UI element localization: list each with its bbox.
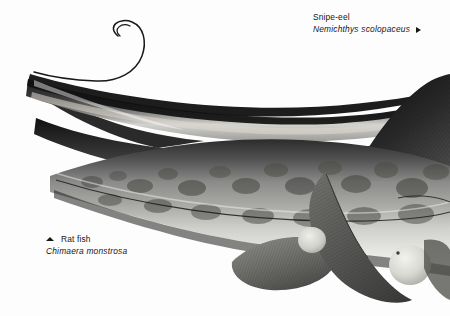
snipe-eel-species-name: Nemichthys scolopaceus	[313, 24, 410, 36]
snipe-eel-common-name: Snipe-eel	[313, 12, 350, 24]
rat-fish-common-name: Rat fish	[61, 234, 91, 246]
fish-illustration	[0, 0, 450, 316]
caption-rat-fish-common-row: Rat fish	[46, 234, 127, 246]
rat-fish-species-name: Chimaera monstrosa	[46, 246, 127, 258]
caption-rat-fish: Rat fish Chimaera monstrosa	[46, 234, 127, 257]
caption-snipe-eel: Snipe-eel Nemichthys scolopaceus	[313, 12, 421, 35]
arrow-right-icon	[416, 27, 421, 33]
caption-snipe-eel-common-row: Snipe-eel	[313, 12, 421, 24]
rat-fish-eye-speck	[396, 251, 399, 254]
rat-fish-fin-base-lobe	[298, 227, 326, 253]
caption-rat-fish-species-row: Chimaera monstrosa	[46, 246, 127, 258]
arrow-up-icon	[46, 237, 54, 241]
caption-snipe-eel-species-row: Nemichthys scolopaceus	[313, 24, 421, 36]
illustration-plate: Snipe-eel Nemichthys scolopaceus Rat fis…	[0, 0, 450, 316]
